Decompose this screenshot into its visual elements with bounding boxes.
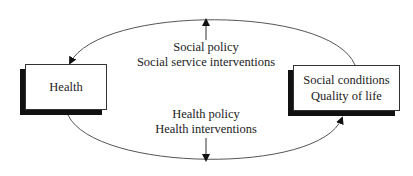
edge-bottom-line2: Health interventions <box>120 122 292 137</box>
edge-top-line1: Social policy <box>120 40 292 55</box>
node-social-line2: Quality of life <box>311 88 382 104</box>
edge-top-label: Social policy Social service interventio… <box>120 40 292 70</box>
node-social-conditions: Social conditions Quality of life <box>293 65 400 111</box>
edge-bottom-label: Health policy Health interventions <box>120 107 292 137</box>
node-health-label: Health <box>49 79 82 95</box>
edge-bottom-line1: Health policy <box>120 107 292 122</box>
node-health: Health <box>25 64 107 110</box>
edge-top-line2: Social service interventions <box>120 55 292 70</box>
node-social-line1: Social conditions <box>303 72 389 88</box>
